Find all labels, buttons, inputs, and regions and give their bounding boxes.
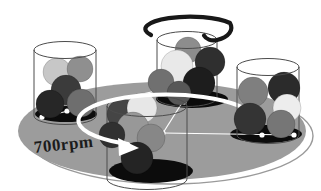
- grinding-ball: [234, 103, 266, 135]
- mount-dot: [259, 132, 264, 137]
- mount-dot: [291, 132, 296, 137]
- grinding-ball: [267, 110, 295, 138]
- grinding-ball: [238, 77, 268, 107]
- grinding-ball: [36, 90, 64, 118]
- jar-left-top-rim: [34, 42, 96, 59]
- jar-right-top-rim: [237, 59, 299, 76]
- ball-mill-diagram: 700rpm: [0, 0, 321, 191]
- ball-mill-svg: [0, 0, 321, 191]
